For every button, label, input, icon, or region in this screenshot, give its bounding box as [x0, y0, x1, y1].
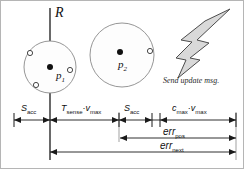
node-2-center-dot: [117, 49, 123, 55]
err-pos-subscript: pos: [175, 133, 185, 139]
send-update-caption: Send update msg.: [163, 77, 219, 85]
segment-3-subscript: acc: [130, 109, 139, 115]
node-1-label-sub: 1: [62, 76, 66, 84]
node-1-member-dot: [33, 82, 38, 87]
node-2-range-circle: [90, 23, 154, 87]
node-1-member-dot: [27, 50, 32, 55]
node-2-label: p2: [118, 59, 127, 73]
segment-2-subscript2: max: [90, 109, 101, 115]
segment-label-s-acc-2: Sacc: [124, 104, 139, 115]
node-2-label-sub: 2: [124, 65, 128, 73]
node-1-label: p1: [56, 70, 65, 84]
err-next-label: errnext: [160, 141, 184, 153]
node-1-center-dot: [47, 64, 53, 70]
segment-4-subscript2: max: [195, 109, 206, 115]
err-pos-label: errpos: [163, 127, 185, 139]
segment-1-subscript: acc: [27, 109, 36, 115]
segment-label-s-acc-1: Sacc: [21, 104, 36, 115]
reference-line-label: R: [55, 6, 64, 20]
node-2-member-dot: [147, 48, 152, 53]
segment-label-c-max-vmax: cmax·vmax: [172, 104, 207, 115]
segment-2-subscript: sense: [67, 109, 83, 115]
err-next-symbol: err: [160, 140, 172, 151]
segment-4-subscript: max: [177, 109, 188, 115]
figure-canvas: R p1 p2 Send update msg. Sacc Tsense·vma…: [0, 0, 244, 169]
segment-label-t-sense-vmax: Tsense·vmax: [61, 104, 101, 115]
err-pos-symbol: err: [163, 126, 175, 137]
node-1-member-dot: [67, 67, 72, 72]
err-next-subscript: next: [172, 147, 183, 153]
